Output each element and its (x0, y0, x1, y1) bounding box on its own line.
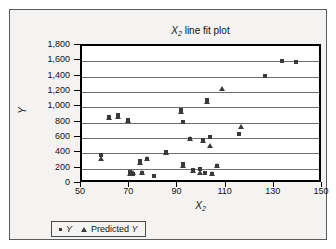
x-axis-tick (225, 182, 226, 187)
legend-label: Predicted Y (91, 225, 138, 234)
data-point (200, 138, 206, 143)
y-axis-tick-label: 1,200 (24, 86, 70, 95)
data-point (98, 156, 104, 161)
data-point (181, 120, 185, 124)
data-point (178, 109, 184, 114)
data-point (152, 174, 156, 178)
x-axis-tick-label: 90 (161, 187, 191, 196)
x-axis-tick-label: 130 (258, 187, 288, 196)
chart-screenshot: X2 line fit plot Y 02004006008001,0001,2… (0, 0, 336, 249)
legend-label: Y (66, 225, 72, 234)
plot-area (80, 44, 321, 182)
data-point (139, 170, 145, 175)
legend-label-prefix: Predicted (91, 224, 132, 234)
y-axis-tick-label: 1,800 (24, 40, 70, 49)
data-point (203, 171, 207, 175)
chart-legend: YPredicted Y (51, 221, 146, 237)
y-axis-tick-label: 1,400 (24, 71, 70, 80)
x-axis-tick (80, 182, 81, 187)
square-marker-icon (59, 228, 62, 231)
data-point (237, 132, 241, 136)
gridline (82, 92, 319, 93)
data-point (280, 59, 284, 63)
data-point (214, 163, 220, 168)
x-axis-tick-label: 150 (306, 187, 336, 196)
chart-title-variable: X (171, 25, 178, 36)
chart-title-subscript: 2 (178, 30, 182, 37)
x-axis-tick (321, 182, 322, 187)
data-point (294, 60, 298, 64)
data-point (207, 143, 213, 148)
data-point (187, 136, 193, 141)
x-axis-tick-label: 50 (65, 187, 95, 196)
data-point (263, 74, 267, 78)
legend-entry[interactable]: Y (59, 225, 72, 234)
data-point (219, 86, 225, 91)
x-axis-title: X2 (80, 200, 321, 211)
x-axis-tick-label: 110 (210, 187, 240, 196)
data-point (197, 170, 203, 175)
gridline (82, 77, 319, 78)
x-axis-title-subscript: 2 (202, 205, 206, 212)
chart-title-rest: line fit plot (182, 25, 230, 36)
data-point (180, 163, 186, 168)
data-point (238, 124, 244, 129)
x-axis-tick (273, 182, 274, 187)
y-axis-tick-label: 600 (24, 132, 70, 141)
data-point (130, 170, 136, 175)
legend-entry[interactable]: Predicted Y (81, 225, 138, 234)
x-axis-tick (128, 182, 129, 187)
x-axis-tick (176, 182, 177, 187)
legend-label-variable: Y (132, 224, 138, 234)
gridline (82, 123, 319, 124)
gridline (82, 107, 319, 108)
y-axis-tick-label: 200 (24, 163, 70, 172)
triangle-marker-icon (81, 227, 87, 232)
y-axis-tick-label: 1,000 (24, 101, 70, 110)
chart-card: X2 line fit plot Y 02004006008001,0001,2… (9, 9, 327, 240)
data-point (190, 168, 196, 173)
y-axis-tick-label: 1,600 (24, 55, 70, 64)
data-point (208, 135, 212, 139)
x-axis-tick-label: 70 (113, 187, 143, 196)
data-point (137, 160, 143, 165)
data-point (163, 150, 169, 155)
chart-title: X2 line fit plot (80, 24, 321, 38)
x-axis-title-variable: X (195, 200, 202, 211)
data-point (144, 156, 150, 161)
data-point (115, 114, 121, 119)
y-axis-tick-label: 400 (24, 147, 70, 156)
data-point (106, 115, 112, 120)
data-point (125, 118, 131, 123)
data-point (209, 171, 215, 176)
y-axis-tick-label: 0 (24, 178, 70, 187)
gridline (82, 153, 319, 154)
y-axis-tick-label: 800 (24, 117, 70, 126)
data-point (204, 99, 210, 104)
